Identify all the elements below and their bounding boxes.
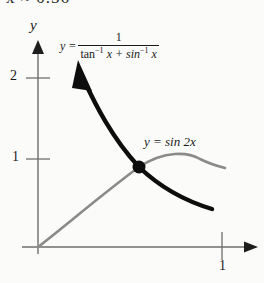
curve-reciprocal-arrowhead bbox=[72, 60, 92, 91]
curve1-den-suffix: x bbox=[149, 47, 157, 61]
curve1-den-mid: x + sin bbox=[104, 47, 140, 61]
y-axis-arrowhead bbox=[32, 40, 44, 54]
curve1-denominator: tan−1 x + sin−1 x bbox=[78, 46, 158, 61]
curve-sin2x-equation-label: y = sin 2x bbox=[144, 135, 196, 148]
y-tick-1-label: 1 bbox=[12, 150, 19, 164]
curve1-den-tan: tan bbox=[80, 47, 95, 61]
y-axis-label: y bbox=[30, 18, 37, 33]
intersection-point bbox=[133, 161, 146, 174]
y-tick-2-label: 2 bbox=[10, 69, 17, 83]
curve1-den-exp1: −1 bbox=[95, 46, 104, 55]
x-tick-1-label: 1 bbox=[219, 259, 226, 273]
figure-container: x ≈ 0.56 y 2 1 1 y = 1 tan−1 x + sin−1 x bbox=[0, 0, 264, 283]
curve1-den-exp2: −1 bbox=[140, 46, 149, 55]
curve1-lhs: y = bbox=[60, 40, 76, 52]
curve-sin2x bbox=[38, 154, 225, 247]
curve1-numerator: 1 bbox=[112, 31, 126, 45]
curve-reciprocal-equation-label: y = 1 tan−1 x + sin−1 x bbox=[60, 31, 159, 60]
x-axis-arrowhead bbox=[244, 242, 258, 253]
curve1-fraction: 1 tan−1 x + sin−1 x bbox=[78, 31, 158, 60]
